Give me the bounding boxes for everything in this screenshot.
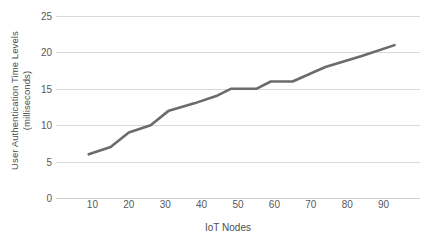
x-tick-90: 90 — [378, 199, 389, 210]
plot-area — [56, 16, 420, 198]
x-axis-ticks: 102030405060708090 — [56, 198, 420, 216]
x-tick-30: 30 — [160, 199, 171, 210]
y-tick-15: 15 — [28, 83, 52, 94]
x-tick-10: 10 — [87, 199, 98, 210]
y-axis-ticks: 0510152025 — [22, 16, 52, 198]
x-tick-70: 70 — [305, 199, 316, 210]
y-tick-0: 0 — [28, 193, 52, 204]
x-tick-60: 60 — [269, 199, 280, 210]
x-tick-80: 80 — [342, 199, 353, 210]
x-tick-20: 20 — [123, 199, 134, 210]
line-chart: User Authentication Time Levels (millise… — [0, 0, 436, 252]
x-tick-50: 50 — [232, 199, 243, 210]
y-tick-20: 20 — [28, 47, 52, 58]
x-tick-40: 40 — [196, 199, 207, 210]
series-polyline — [89, 45, 395, 154]
x-axis-label: IoT Nodes — [0, 222, 436, 233]
x-axis-label-text: IoT Nodes — [205, 222, 251, 233]
y-tick-10: 10 — [28, 120, 52, 131]
series-line-user-authentication-time — [56, 16, 420, 198]
y-tick-25: 25 — [28, 11, 52, 22]
y-tick-5: 5 — [28, 156, 52, 167]
y-axis-label-line1: User Authentication Time Levels — [9, 31, 20, 170]
